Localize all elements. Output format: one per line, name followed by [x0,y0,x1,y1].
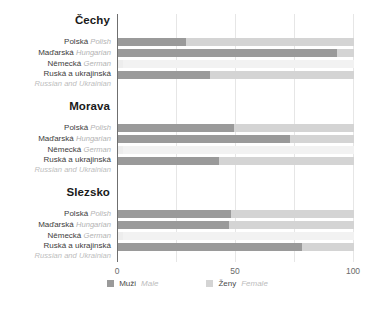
group-title: Čechy [75,14,110,26]
bar-row-label: Německá German [48,144,111,155]
bar-row: Německá German [118,232,354,240]
bar-row-label: Ruská a ukrajinskáRussian and Ukrainian [35,241,111,261]
bar-row: Ruská a ukrajinskáRussian and Ukrainian [118,71,354,79]
bar-segment-male [118,38,186,46]
x-tick-100: 100 [346,266,360,276]
bar-segment-male [118,210,231,218]
legend-label-male-cs: Muži [119,279,136,288]
bar-segment-female [210,71,354,79]
bar-segment-female [231,210,354,218]
x-tick-0: 0 [115,266,120,276]
bar-segment-female [337,49,354,57]
bar-segment-male [118,157,219,165]
bar-segment-female [123,146,354,154]
legend-swatch-female-icon [206,280,213,287]
bar-row-label: Polská Polish [64,36,111,47]
bar-segment-female [302,243,354,251]
bar-segment-male [118,243,302,251]
bar-segment-female [186,38,354,46]
bar-segment-male [118,49,337,57]
bar-row: Maďarská Hungarian [118,221,354,229]
bar-row-label: Polská Polish [64,122,111,133]
bar-segment-female [123,232,354,240]
bar-row: Polská Polish [118,124,354,132]
bar-row: Maďarská Hungarian [118,49,354,57]
legend-label-female-en: Female [241,279,268,288]
bar-row: Polská Polish [118,210,354,218]
bar-segment-female [229,221,354,229]
stacked-bar-chart: ČechyPolská PolishMaďarská HungarianNěme… [0,0,375,310]
group-title: Slezsko [66,186,110,198]
bar-segment-female [123,60,354,68]
bar-segment-female [219,157,354,165]
bar-segment-female [234,124,354,132]
group-title: Morava [69,100,110,112]
bar-row: Německá German [118,60,354,68]
bar-segment-male [118,221,229,229]
bar-row-label: Německá German [48,58,111,69]
legend-item-female[interactable]: Ženy Female [206,279,267,288]
chart-legend: Muži Male Ženy Female [0,279,375,288]
legend-item-male[interactable]: Muži Male [107,279,158,288]
bar-row: Maďarská Hungarian [118,135,354,143]
bar-segment-male [118,135,290,143]
bar-row-label: Polská Polish [64,208,111,219]
bar-row-label: Ruská a ukrajinskáRussian and Ukrainian [35,155,111,175]
legend-label-female-cs: Ženy [218,279,236,288]
bar-row-label: Maďarská Hungarian [38,47,111,58]
bar-segment-male [118,124,234,132]
bar-row-label: Maďarská Hungarian [38,219,111,230]
bar-row-label: Ruská a ukrajinskáRussian and Ukrainian [35,69,111,89]
legend-swatch-male-icon [107,280,114,287]
legend-label-male-en: Male [141,279,158,288]
plot-area: ČechyPolská PolishMaďarská HungarianNěme… [117,14,353,262]
bar-row: Polská Polish [118,38,354,46]
bar-row: Ruská a ukrajinskáRussian and Ukrainian [118,243,354,251]
x-tick-50: 50 [230,266,239,276]
bar-segment-female [290,135,354,143]
bar-row: Ruská a ukrajinskáRussian and Ukrainian [118,157,354,165]
bar-segment-male [118,71,210,79]
bar-row-label: Německá German [48,230,111,241]
bar-row-label: Maďarská Hungarian [38,133,111,144]
bar-row: Německá German [118,146,354,154]
